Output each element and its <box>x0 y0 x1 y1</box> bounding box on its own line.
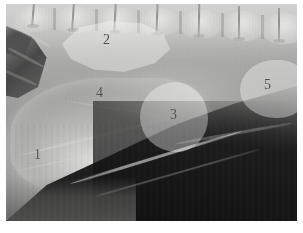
region-label-3: 3 <box>170 108 177 122</box>
region-label-1: 1 <box>34 148 41 162</box>
radiograph-plate[interactable]: 1 2 3 4 5 <box>6 4 297 221</box>
region-label-5: 5 <box>264 78 271 92</box>
region-label-4: 4 <box>96 86 103 100</box>
radiograph-figure: 1 2 3 4 5 <box>0 0 303 233</box>
region-label-2: 2 <box>103 33 110 47</box>
